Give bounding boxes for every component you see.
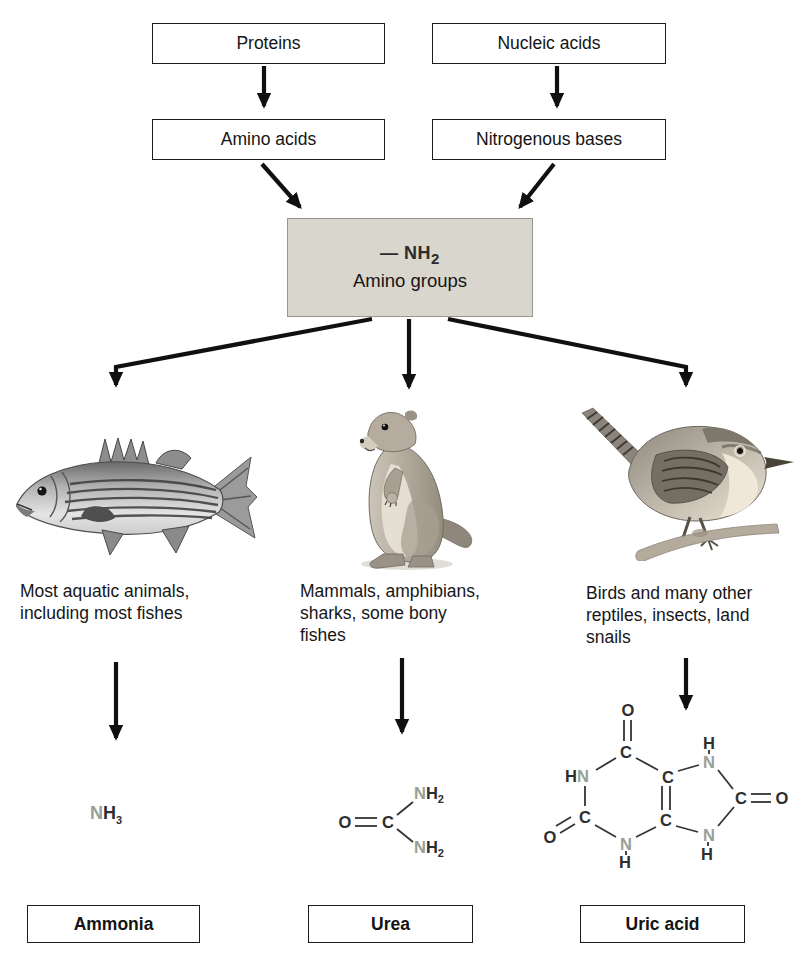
atom-c-right: C [735, 790, 747, 807]
ammonia-formula: NH3 [90, 803, 122, 823]
box-nucleic-acids-label: Nucleic acids [497, 33, 600, 54]
atom-c-left: C [579, 809, 591, 826]
atom-n-top-right: N [703, 754, 715, 771]
ammonia-label: Ammonia [74, 914, 154, 935]
prairie-dog-head [368, 412, 416, 451]
caption-uric-acid-animals: Birds and many other reptiles, insects, … [586, 582, 786, 648]
wren-bird-illustration [572, 403, 800, 561]
box-nitrogenous-bases: Nitrogenous bases [432, 119, 666, 160]
box-uric-acid: Uric acid [580, 905, 745, 943]
box-amino-acids: Amino acids [152, 119, 385, 160]
atom-c: C [382, 814, 394, 831]
atom-h: H [103, 803, 116, 823]
prairie-dog-paws [387, 493, 398, 504]
box-urea: Urea [308, 905, 473, 943]
bird-crown [702, 428, 755, 447]
formula-hydrogen: H [418, 243, 432, 263]
atom-c-junction-bottom: C [660, 812, 672, 829]
prairie-dog-illustration [335, 396, 485, 574]
fish-mouth [16, 504, 35, 517]
prairie-dog-muzzle [360, 436, 378, 450]
prairie-dog-foot-front [370, 554, 405, 568]
formula-nitrogen: N [404, 243, 418, 263]
bird-wing [652, 450, 728, 503]
atom-h-bottom: H [619, 854, 631, 871]
ammonia-molecule: NH3 [90, 804, 122, 826]
fish-stripes [65, 480, 218, 519]
twig-perch [636, 524, 779, 561]
bird-breast [720, 453, 758, 517]
box-nucleic-acids: Nucleic acids [432, 23, 666, 64]
prairie-dog-nose [360, 439, 364, 443]
bird-body [629, 426, 767, 521]
ground-shadow [361, 558, 453, 570]
arrow-bases-to-groups [520, 164, 554, 207]
atom-c-junction-top: C [662, 769, 674, 786]
arrow-groups-to-bird [448, 319, 686, 385]
bird-eyestripe [722, 446, 761, 453]
prairie-dog-arms [384, 468, 403, 502]
box-proteins-label: Proteins [236, 33, 300, 54]
prairie-dog-haunch [401, 500, 439, 558]
formula-dash: — [380, 243, 399, 263]
prairie-dog-eye [382, 424, 389, 431]
amine-group-bottom: NH2 [414, 839, 444, 859]
ammonia-subscript: 3 [116, 814, 122, 826]
caption-ammonia-animals: Most aquatic animals, including most fis… [20, 580, 255, 624]
arrow-amino-acids-to-groups [262, 164, 300, 207]
fish-pectoral-fin [81, 506, 115, 522]
fish-eye [37, 486, 46, 495]
prairie-dog-ear [405, 411, 417, 421]
prairie-dog-chest [382, 464, 418, 556]
fish-dorsal-fin [98, 438, 149, 467]
atom-o-right: O [776, 790, 789, 807]
atom-n: N [90, 803, 103, 823]
uric-acid-molecule: O C HN C O N H C C H N C O N H [540, 690, 800, 890]
box-proteins: Proteins [152, 23, 385, 64]
prairie-dog-foot-back [408, 556, 434, 567]
atom-hn-left: HN [565, 768, 589, 785]
prairie-dog-mouth [365, 448, 375, 450]
uric-acid-bonds [540, 690, 800, 890]
bird-tail [582, 408, 641, 465]
atom-o: O [339, 814, 352, 831]
atom-h-bottom-right: H [701, 846, 713, 863]
fish-gill-cover [50, 472, 70, 522]
arrow-groups-to-fish [116, 319, 372, 385]
amine-group-top: NH2 [414, 785, 444, 805]
box-nitrogenous-bases-label: Nitrogenous bases [476, 129, 622, 150]
urea-label: Urea [371, 914, 410, 935]
atom-o-left: O [544, 829, 557, 846]
atom-n-bottom-right: N [703, 827, 715, 844]
uric-acid-label: Uric acid [626, 914, 700, 935]
prairie-dog-tail [431, 519, 472, 547]
atom-o-top: O [622, 702, 635, 719]
atom-c-top: C [620, 744, 632, 761]
bird-tail-barring [587, 412, 633, 455]
atom-n-bottom: N [620, 836, 632, 853]
bird-wing-barring [662, 458, 722, 493]
fish-tail [215, 457, 257, 538]
fish-pelvic-fin [102, 530, 123, 555]
caption-urea-animals: Mammals, amphibians, sharks, some bony f… [300, 580, 496, 646]
fish-anal-fin [162, 526, 189, 553]
striped-bass-fish-illustration [10, 424, 265, 572]
bird-beak [764, 457, 794, 469]
bird-claws [676, 535, 718, 550]
atom-h-top-right: H [703, 735, 715, 752]
box-ammonia: Ammonia [27, 905, 200, 943]
urea-molecule: O C NH2 NH2 [318, 778, 478, 870]
bird-eye [737, 448, 743, 454]
bird-legs [684, 517, 708, 539]
amino-group-formula: — NH2 [380, 243, 440, 267]
box-amino-groups: — NH2 Amino groups [287, 218, 533, 317]
formula-subscript: 2 [431, 250, 440, 267]
amino-groups-label: Amino groups [353, 270, 467, 292]
fish-body [17, 462, 223, 535]
nitrogenous-waste-diagram: Proteins Nucleic acids Amino acids Nitro… [0, 0, 807, 959]
prairie-dog-body [369, 445, 443, 562]
box-amino-acids-label: Amino acids [221, 129, 316, 150]
fish-soft-dorsal-fin [156, 450, 191, 469]
